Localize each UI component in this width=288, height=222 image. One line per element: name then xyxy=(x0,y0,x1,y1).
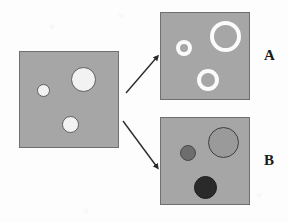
arrow-to-panel-a xyxy=(126,57,157,93)
small-white-circle xyxy=(37,84,50,97)
panel-b-label: B xyxy=(264,153,274,168)
small-dark-gray-circle xyxy=(180,145,196,161)
panel-a xyxy=(160,12,250,100)
figure-root: A B xyxy=(0,0,288,222)
medium-white-ring xyxy=(197,69,219,91)
arrow-to-panel-b xyxy=(123,121,157,167)
large-white-ring xyxy=(210,21,241,52)
panel-a-label: A xyxy=(264,48,275,63)
panel-b xyxy=(160,117,250,205)
source-square xyxy=(19,51,119,148)
large-medium-gray-circle xyxy=(208,127,239,158)
medium-white-circle xyxy=(62,116,79,133)
medium-black-circle xyxy=(194,176,217,199)
small-white-ring xyxy=(176,40,192,56)
large-white-circle xyxy=(71,67,96,92)
